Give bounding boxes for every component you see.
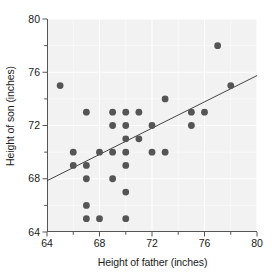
- data-point: [57, 82, 64, 89]
- data-point: [122, 162, 129, 169]
- data-point: [122, 122, 129, 129]
- data-point: [122, 189, 129, 196]
- scatter-plot-figure: Height of son (inches) 6468727680 646872…: [0, 0, 272, 277]
- data-point: [83, 175, 90, 182]
- x-tick-label: 80: [237, 238, 272, 249]
- data-point: [149, 122, 156, 129]
- data-point: [83, 202, 90, 209]
- data-point: [83, 109, 90, 116]
- data-point: [109, 149, 116, 156]
- data-point: [122, 215, 129, 222]
- data-point: [149, 149, 156, 156]
- y-tick-label: 64: [0, 227, 40, 238]
- x-tick-label: 72: [132, 238, 172, 249]
- y-tick-label: 76: [0, 67, 40, 78]
- data-point: [70, 162, 77, 169]
- x-tick-label: 68: [80, 238, 120, 249]
- data-point: [96, 149, 103, 156]
- data-point: [188, 109, 195, 116]
- data-point: [188, 122, 195, 129]
- y-tick-label: 72: [0, 120, 40, 131]
- data-point: [122, 109, 129, 116]
- data-point: [135, 109, 142, 116]
- data-point: [162, 149, 169, 156]
- data-point: [109, 122, 116, 129]
- data-point: [70, 149, 77, 156]
- y-tick-label: 68: [0, 173, 40, 184]
- data-point: [109, 175, 116, 182]
- plot-svg: [47, 19, 257, 232]
- data-point: [214, 42, 221, 49]
- data-point: [135, 135, 142, 142]
- x-axis-title: Height of father (inches): [47, 256, 258, 268]
- data-point: [109, 109, 116, 116]
- data-point: [122, 135, 129, 142]
- data-point: [227, 82, 234, 89]
- data-point: [83, 162, 90, 169]
- data-point: [122, 149, 129, 156]
- x-tick-label: 76: [185, 238, 225, 249]
- data-points-group: [57, 42, 234, 222]
- x-tick-label: 64: [27, 238, 67, 249]
- data-point: [162, 95, 169, 102]
- data-point: [96, 215, 103, 222]
- y-tick-label: 80: [0, 14, 40, 25]
- y-axis-title: Height of son (inches): [2, 0, 18, 232]
- data-point: [83, 215, 90, 222]
- data-point: [201, 109, 208, 116]
- plot-area: [47, 19, 257, 232]
